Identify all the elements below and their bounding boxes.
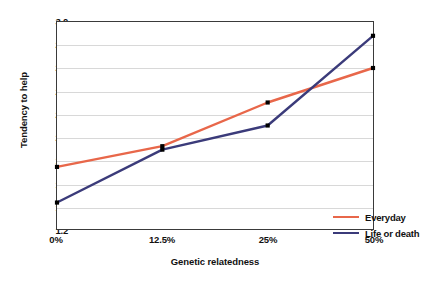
data-point-marker (266, 123, 270, 127)
series-line (57, 36, 373, 203)
x-tick-label: 0% (26, 234, 86, 245)
legend-color-swatch (333, 216, 359, 219)
x-axis-title: Genetic relatedness (56, 256, 374, 267)
data-point-marker (266, 100, 270, 104)
plot-area: EverydayLife or death (56, 21, 374, 230)
x-tick-label: 50% (344, 234, 404, 245)
x-tick-label: 12.5% (132, 234, 192, 245)
data-point-marker (160, 148, 164, 152)
x-tick-label: 25% (238, 234, 298, 245)
data-point-marker (55, 165, 59, 169)
series-group (57, 36, 373, 203)
data-point-marker (371, 34, 375, 38)
plot-canvas (57, 22, 373, 229)
legend-label: Everyday (365, 212, 406, 223)
data-point-marker (55, 200, 59, 204)
series-line (57, 68, 373, 167)
legend-item: Everyday (333, 209, 424, 225)
data-point-marker (371, 66, 375, 70)
